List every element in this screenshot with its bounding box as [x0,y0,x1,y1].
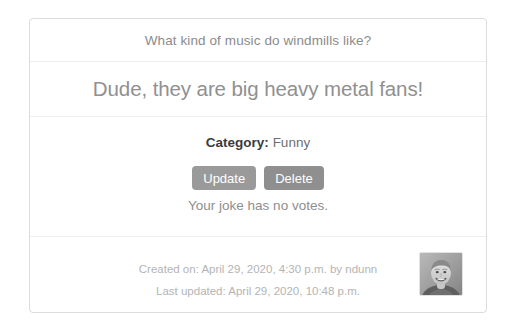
avatar [419,252,463,296]
card-header: What kind of music do windmills like? [30,19,486,62]
delete-button[interactable]: Delete [264,166,324,190]
category-line: Category: Funny [206,135,310,150]
last-updated-text: Last updated: April 29, 2020, 10:48 p.m. [156,280,360,302]
joke-question: What kind of music do windmills like? [145,33,372,48]
category-label: Category: [206,135,269,150]
action-button-row: Update Delete [192,166,324,190]
joke-punchline: Dude, they are big heavy metal fans! [93,77,423,101]
joke-card: What kind of music do windmills like? Du… [29,18,487,313]
card-body: Category: Funny Update Delete Your joke … [30,117,486,237]
update-button[interactable]: Update [192,166,256,190]
page-root: What kind of music do windmills like? Du… [0,0,516,332]
card-footer: Created on: April 29, 2020, 4:30 p.m. by… [30,237,486,312]
card-punchline-section: Dude, they are big heavy metal fans! [30,62,486,117]
vote-status-text: Your joke has no votes. [188,198,328,213]
category-value: Funny [273,135,311,150]
created-on-text: Created on: April 29, 2020, 4:30 p.m. by… [139,258,377,280]
